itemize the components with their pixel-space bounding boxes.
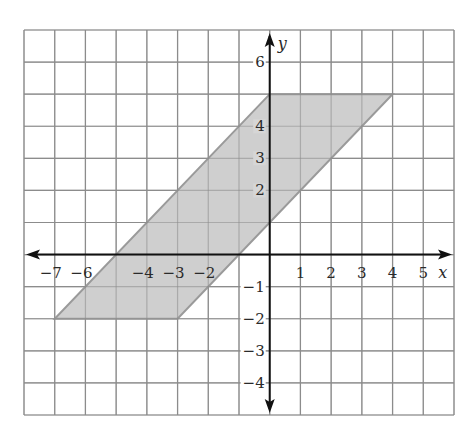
x-tick-label: 1	[296, 264, 306, 282]
y-tick-label: 6	[255, 53, 265, 71]
y-tick-label: 4	[255, 117, 265, 135]
y-axis-label: y	[277, 34, 288, 53]
x-tick-label: −3	[163, 264, 185, 282]
x-tick-label: 4	[388, 264, 398, 282]
coordinate-plane: −7−6−4−3−2123456432−1−2−3−4 x y	[0, 0, 476, 440]
y-tick-label: −2	[243, 310, 265, 328]
x-tick-label: −4	[132, 264, 154, 282]
x-tick-label: −7	[40, 264, 62, 282]
x-tick-label: −2	[193, 264, 215, 282]
x-tick-label: 3	[357, 264, 367, 282]
x-tick-label: −6	[70, 264, 92, 282]
x-tick-label: 2	[326, 264, 336, 282]
y-tick-label: −1	[243, 278, 265, 296]
grid-lines-over-shape	[24, 30, 454, 415]
x-tick-label: 5	[419, 264, 429, 282]
parallelogram	[55, 94, 393, 319]
x-axis-label: x	[438, 263, 447, 282]
y-tick-label: 2	[255, 181, 265, 199]
y-tick-label: 3	[255, 149, 265, 167]
y-tick-label: −4	[243, 374, 265, 392]
y-tick-label: −3	[243, 342, 265, 360]
